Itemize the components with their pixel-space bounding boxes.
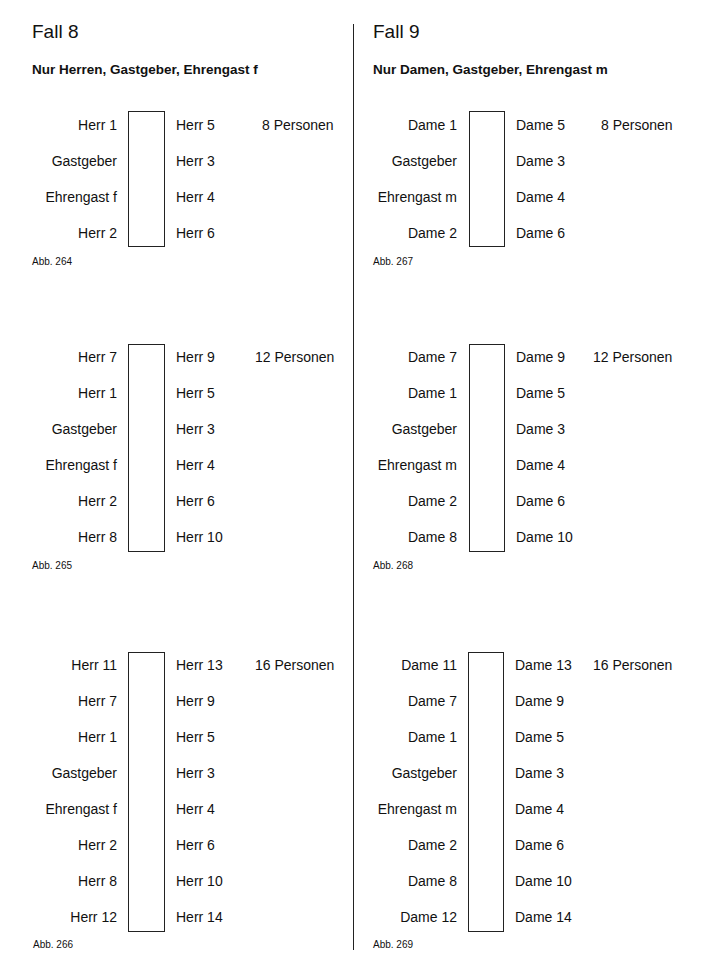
seat-right: Herr 5 <box>176 729 215 745</box>
seat-right: Dame 5 <box>515 729 564 745</box>
seat-right: Herr 9 <box>176 349 215 365</box>
seat-right: Herr 4 <box>176 189 215 205</box>
table-rect <box>128 344 165 552</box>
seat-left: Herr 2 <box>78 225 117 241</box>
seat-right: Dame 9 <box>515 693 564 709</box>
seat-left: Dame 8 <box>408 529 457 545</box>
figure-label: Abb. 268 <box>373 560 413 572</box>
seat-right: Dame 14 <box>515 909 572 925</box>
seat-left: Dame 2 <box>408 225 457 241</box>
seat-left: Herr 1 <box>78 729 117 745</box>
seat-right: Dame 4 <box>515 801 564 817</box>
seat-left: Gastgeber <box>52 153 117 169</box>
seat-left: Herr 7 <box>78 349 117 365</box>
seat-right: Herr 6 <box>176 837 215 853</box>
seat-left: Dame 1 <box>408 385 457 401</box>
seat-right: Dame 9 <box>516 349 565 365</box>
seat-left: Gastgeber <box>392 153 457 169</box>
seat-right: Herr 14 <box>176 909 223 925</box>
figure-label: Abb. 269 <box>373 939 413 951</box>
figure-label: Abb. 265 <box>32 560 72 572</box>
fall-8-title: Fall 8 <box>32 21 78 43</box>
seat-left: Dame 1 <box>408 729 457 745</box>
fall-8-column: Fall 8 Nur Herren, Gastgeber, Ehrengast … <box>0 0 350 972</box>
fall-9-column: Fall 9 Nur Damen, Gastgeber, Ehrengast m… <box>340 0 690 972</box>
seat-left: Ehrengast f <box>45 457 117 473</box>
seat-left: Dame 2 <box>408 837 457 853</box>
person-count: 16 Personen <box>255 657 334 673</box>
seat-left: Gastgeber <box>392 765 457 781</box>
person-count: 12 Personen <box>593 349 672 365</box>
seat-right: Herr 3 <box>176 421 215 437</box>
table-rect <box>128 111 165 247</box>
table-rect <box>468 652 504 932</box>
seat-right: Herr 6 <box>176 493 215 509</box>
seat-left: Herr 1 <box>78 117 117 133</box>
seat-left: Herr 8 <box>78 873 117 889</box>
figure-label: Abb. 267 <box>373 256 413 268</box>
seat-left: Dame 2 <box>408 493 457 509</box>
seat-right: Herr 5 <box>176 117 215 133</box>
figure-label: Abb. 266 <box>33 939 73 951</box>
seat-left: Dame 1 <box>408 117 457 133</box>
seat-right: Herr 9 <box>176 693 215 709</box>
seat-right: Herr 6 <box>176 225 215 241</box>
seat-left: Dame 7 <box>408 693 457 709</box>
person-count: 16 Personen <box>593 657 672 673</box>
seat-left: Dame 8 <box>408 873 457 889</box>
seat-left: Herr 7 <box>78 693 117 709</box>
seat-right: Dame 3 <box>515 765 564 781</box>
person-count: 8 Personen <box>262 117 334 133</box>
figure-label: Abb. 264 <box>32 256 72 268</box>
seat-right: Dame 10 <box>516 529 573 545</box>
seat-left: Herr 1 <box>78 385 117 401</box>
table-rect <box>469 344 505 552</box>
seat-right: Dame 5 <box>516 385 565 401</box>
seat-left: Ehrengast m <box>378 457 457 473</box>
person-count: 8 Personen <box>601 117 673 133</box>
seat-right: Herr 10 <box>176 873 223 889</box>
seat-right: Herr 13 <box>176 657 223 673</box>
seat-right: Herr 3 <box>176 765 215 781</box>
seat-right: Dame 5 <box>516 117 565 133</box>
seat-right: Herr 3 <box>176 153 215 169</box>
seat-right: Dame 6 <box>515 837 564 853</box>
seat-left: Herr 2 <box>78 493 117 509</box>
seat-right: Herr 4 <box>176 457 215 473</box>
seat-left: Dame 11 <box>401 657 457 673</box>
fall-9-subtitle: Nur Damen, Gastgeber, Ehrengast m <box>373 62 608 77</box>
seat-right: Dame 6 <box>516 493 565 509</box>
seat-left: Herr 12 <box>70 909 117 925</box>
seat-left: Gastgeber <box>52 765 117 781</box>
table-rect <box>469 111 505 247</box>
fall-9-title: Fall 9 <box>373 21 419 43</box>
seat-left: Ehrengast m <box>378 189 457 205</box>
seat-left: Ehrengast f <box>45 801 117 817</box>
seat-right: Herr 4 <box>176 801 215 817</box>
seat-right: Herr 10 <box>176 529 223 545</box>
seat-left: Herr 11 <box>71 657 117 673</box>
seat-right: Herr 5 <box>176 385 215 401</box>
seat-left: Dame 12 <box>400 909 457 925</box>
seat-right: Dame 3 <box>516 153 565 169</box>
seat-left: Ehrengast f <box>45 189 117 205</box>
seat-right: Dame 3 <box>516 421 565 437</box>
seat-left: Gastgeber <box>392 421 457 437</box>
seat-right: Dame 6 <box>516 225 565 241</box>
seat-right: Dame 4 <box>516 457 565 473</box>
seat-right: Dame 4 <box>516 189 565 205</box>
table-rect <box>128 652 165 932</box>
seat-left: Dame 7 <box>408 349 457 365</box>
seat-left: Herr 8 <box>78 529 117 545</box>
person-count: 12 Personen <box>255 349 334 365</box>
seat-left: Herr 2 <box>78 837 117 853</box>
seat-left: Gastgeber <box>52 421 117 437</box>
seat-right: Dame 10 <box>515 873 572 889</box>
seat-left: Ehrengast m <box>378 801 457 817</box>
seat-right: Dame 13 <box>515 657 572 673</box>
fall-8-subtitle: Nur Herren, Gastgeber, Ehrengast f <box>32 62 258 77</box>
